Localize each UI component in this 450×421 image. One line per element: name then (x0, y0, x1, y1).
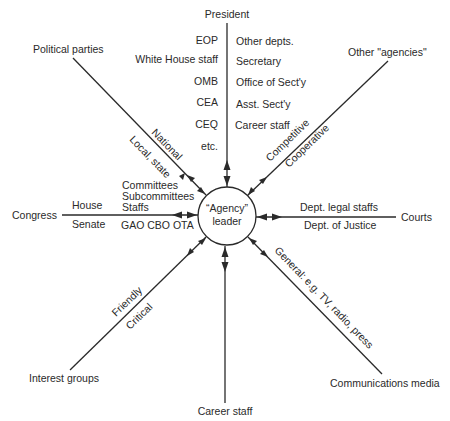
node-political-parties: Political parties (33, 43, 104, 55)
president-left-item: OMB (194, 75, 218, 87)
communications-general-label: General: e.g. TV, radio, press (273, 244, 377, 351)
president-spoke-right-list: Other depts. Secretary Office of Sect'y … (235, 35, 307, 131)
president-left-item: EOP (196, 34, 218, 46)
agency-leader-label-line2: leader (212, 215, 242, 227)
president-right-item: Asst. Sect'y (236, 98, 291, 110)
node-courts: Courts (401, 211, 432, 223)
president-left-item: CEA (196, 96, 218, 108)
agency-leader-label-line1: “Agency” (206, 202, 249, 214)
spoke-political-parties (73, 58, 206, 195)
node-other-agencies: Other "agencies" (348, 46, 427, 58)
courts-dept-legal-staffs: Dept. legal staffs (300, 201, 378, 213)
congress-inner-above-list: Committees Subcommittees Staffs (122, 179, 194, 213)
congress-gao-cbo-ota: GAO CBO OTA (121, 219, 194, 231)
president-left-item: White House staff (135, 53, 218, 65)
node-communications-media: Communications media (330, 377, 440, 389)
president-right-item: Office of Sect'y (236, 76, 307, 88)
president-left-item: CEQ (195, 118, 218, 130)
president-right-item: Secretary (236, 55, 282, 67)
president-right-item: Career staff (235, 119, 290, 131)
congress-house: House (72, 199, 103, 211)
courts-dept-of-justice: Dept. of Justice (304, 219, 377, 231)
node-career-staff: Career staff (198, 405, 253, 417)
president-right-item: Other depts. (236, 35, 294, 47)
node-congress: Congress (12, 209, 57, 221)
congress-inner-item: Staffs (122, 201, 149, 213)
spoke-interest-groups (70, 237, 206, 370)
agency-leader-diagram: “Agency” leader President Political part… (0, 0, 450, 421)
president-left-item: etc. (201, 140, 218, 152)
spoke-communications-media (248, 237, 382, 374)
node-interest-groups: Interest groups (29, 372, 99, 384)
congress-senate: Senate (72, 218, 105, 230)
node-president: President (205, 8, 249, 20)
